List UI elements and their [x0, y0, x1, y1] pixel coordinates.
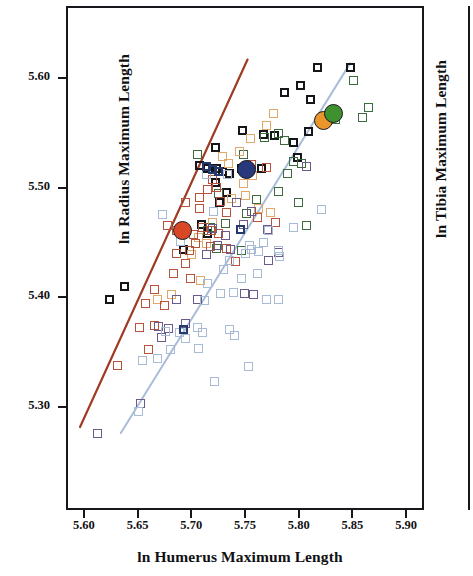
data-point-light-blue: [134, 407, 143, 416]
data-point-light-blue: [262, 295, 271, 304]
data-point-dark-green: [280, 136, 289, 145]
data-point-light-blue: [210, 377, 219, 386]
data-point-dark-green: [193, 150, 202, 159]
data-point-black: [289, 138, 298, 147]
data-point-light-blue: [194, 344, 203, 353]
data-point-navy: [214, 167, 223, 176]
data-point-purple: [202, 250, 211, 259]
data-point-brick-red: [216, 197, 225, 206]
data-point-light-blue: [237, 274, 246, 283]
y-tick-mark: [58, 296, 66, 298]
data-point-tan-orange: [241, 191, 250, 200]
data-point-purple: [249, 290, 258, 299]
adjacent-panel-edge: [468, 6, 470, 510]
data-point-light-blue: [138, 356, 147, 365]
data-point-dark-green: [364, 103, 373, 112]
data-point-light-blue: [198, 328, 207, 337]
data-point-tan-orange: [262, 121, 271, 130]
y-tick-label: 5.30: [4, 398, 50, 413]
x-tick-label: 5.75: [219, 518, 271, 533]
data-point-light-blue: [253, 269, 262, 278]
x-tick-label: 5.80: [273, 518, 325, 533]
data-point-light-blue: [219, 265, 228, 274]
data-point-tan-orange: [235, 147, 244, 156]
data-point-black: [306, 95, 315, 104]
y-axis-title: ln Radius Maximum Length: [115, 19, 133, 279]
data-point-brick-red: [181, 198, 190, 207]
data-point-black: [304, 127, 313, 136]
data-point-light-blue: [166, 345, 175, 354]
data-point-navy: [179, 325, 188, 334]
data-point-brick-red: [172, 249, 181, 258]
data-point-brick-red: [141, 299, 150, 308]
data-point-light-blue: [225, 256, 234, 265]
data-point-brick-red: [262, 163, 271, 172]
data-point-purple: [208, 224, 217, 233]
data-point-light-blue: [223, 170, 232, 179]
data-point-light-blue: [247, 245, 256, 254]
data-point-light-blue: [259, 238, 268, 247]
data-point-dark-green: [349, 76, 358, 85]
data-point-light-blue: [203, 279, 212, 288]
data-point-black: [313, 63, 322, 72]
data-point-purple: [221, 231, 230, 240]
data-point-tan-orange: [266, 208, 275, 217]
data-point-dark-green: [252, 195, 261, 204]
data-point-tan-orange: [246, 134, 255, 143]
data-point-light-blue: [289, 223, 298, 232]
data-point-brick-red: [160, 301, 169, 310]
data-point-dark-green: [302, 221, 311, 230]
navy-centroid: [237, 160, 256, 179]
x-tick-mark: [137, 510, 139, 518]
data-point-brick-red: [181, 259, 190, 268]
data-point-light-blue: [274, 295, 283, 304]
data-point-brick-red: [222, 208, 231, 217]
data-point-light-blue: [230, 331, 239, 340]
data-point-purple: [93, 429, 102, 438]
y-tick-mark: [58, 406, 66, 408]
x-axis-title: ln Humerus Maximum Length: [40, 548, 440, 566]
data-point-light-blue: [244, 362, 253, 371]
data-point-brick-red: [203, 185, 212, 194]
data-point-dark-green: [358, 113, 367, 122]
x-tick-mark: [405, 510, 407, 518]
data-point-light-blue: [200, 296, 209, 305]
x-tick-mark: [244, 510, 246, 518]
data-point-brick-red: [144, 345, 153, 354]
data-point-light-blue: [317, 205, 326, 214]
y-tick-mark: [58, 77, 66, 79]
data-point-dark-green: [260, 133, 269, 142]
data-point-light-blue: [216, 289, 225, 298]
data-point-brick-red: [185, 246, 194, 255]
data-point-light-blue: [158, 210, 167, 219]
data-point-purple: [213, 241, 222, 250]
data-point-navy: [236, 225, 245, 234]
data-point-black: [120, 282, 129, 291]
data-point-purple: [172, 295, 181, 304]
data-point-dark-green: [274, 187, 283, 196]
data-point-brick-red: [212, 183, 221, 192]
y-tick-label: 5.50: [4, 179, 50, 194]
scatter-plot-figure: 5.305.405.505.60 5.605.655.705.755.805.8…: [0, 0, 473, 576]
data-point-light-blue: [161, 327, 170, 336]
data-point-tan-orange: [224, 159, 233, 168]
data-point-light-blue: [275, 252, 284, 261]
data-point-brick-red: [150, 285, 159, 294]
data-point-purple: [302, 162, 311, 171]
data-point-brick-red: [113, 361, 122, 370]
x-tick-label: 5.65: [112, 518, 164, 533]
data-point-light-blue: [264, 226, 273, 235]
x-tick-mark: [190, 510, 192, 518]
data-point-brick-red: [169, 269, 178, 278]
x-tick-label: 5.90: [380, 518, 432, 533]
y-tick-label: 5.40: [4, 288, 50, 303]
y-tick-label: 5.60: [4, 69, 50, 84]
x-tick-mark: [83, 510, 85, 518]
data-point-light-blue: [229, 288, 238, 297]
y-axis-title-right: ln Tibia Maximum Length: [432, 19, 450, 279]
x-tick-mark: [351, 510, 353, 518]
x-tick-mark: [298, 510, 300, 518]
y-tick-mark: [58, 187, 66, 189]
x-tick-label: 5.85: [326, 518, 378, 533]
data-point-black: [296, 81, 305, 90]
